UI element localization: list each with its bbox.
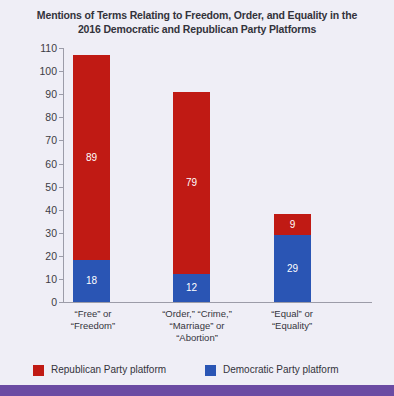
y-axis-tick-label: 80 [45, 112, 57, 123]
y-axis-tick-label: 40 [45, 204, 57, 215]
y-axis-tick [59, 279, 63, 280]
y-axis-tick-label: 20 [45, 251, 57, 262]
x-axis-category-line: “Abortion” [137, 332, 257, 344]
plot-area: 0 10 20 30 40 50 60 70 80 90 100 110 18 … [63, 48, 372, 302]
bar-segment-republican[interactable]: 89 [73, 55, 110, 261]
x-axis-category-line: “Equal” or [242, 308, 342, 320]
y-axis-tick-label: 0 [51, 297, 57, 308]
x-axis-category-line: “Order,” “Crime,” [137, 308, 257, 320]
bar-group[interactable]: 29 9 [274, 214, 311, 302]
x-axis-category-line: “Freedom” [43, 320, 143, 332]
y-axis-tick-label: 100 [39, 66, 57, 77]
y-axis-tick [59, 48, 63, 49]
bar-segment-republican[interactable]: 79 [173, 92, 210, 274]
bar-segment-value: 18 [86, 276, 97, 286]
bar-segment-republican[interactable]: 9 [274, 214, 311, 235]
bar-segment-value: 89 [86, 153, 97, 163]
chart-title: Mentions of Terms Relating to Freedom, O… [12, 9, 382, 36]
y-axis-tick [59, 94, 63, 95]
bar-group[interactable]: 18 89 [73, 55, 110, 302]
y-axis-tick-label: 10 [45, 274, 57, 285]
y-axis-tick-label: 110 [40, 43, 57, 54]
bottom-accent-band [0, 385, 394, 396]
y-axis-tick-label: 60 [45, 158, 57, 169]
y-axis-tick [59, 210, 63, 211]
bar-segment-value: 29 [287, 264, 298, 274]
y-axis-tick-label: 50 [45, 181, 57, 192]
bar-segment-value: 9 [290, 220, 296, 230]
x-axis-category-label: “Order,” “Crime,” “Marriage” or “Abortio… [137, 308, 257, 344]
legend-item-label: Democratic Party platform [223, 365, 339, 375]
bar-segment-value: 79 [186, 178, 197, 188]
x-axis-category-label: “Free” or “Freedom” [43, 308, 143, 332]
bar-group[interactable]: 12 79 [173, 92, 210, 302]
legend-item-republican[interactable]: Republican Party platform [33, 362, 166, 378]
bar-segment-value: 12 [186, 283, 197, 293]
y-axis-tick [59, 140, 63, 141]
chart-figure: Mentions of Terms Relating to Freedom, O… [0, 0, 394, 396]
y-axis-tick [59, 187, 63, 188]
x-axis-category-line: “Free” or [43, 308, 143, 320]
y-axis-tick [59, 302, 63, 303]
bar-segment-democratic[interactable]: 18 [73, 260, 110, 302]
legend-swatch-icon [33, 365, 44, 376]
chart-legend: Republican Party platform Democratic Par… [0, 362, 394, 378]
chart-title-line-1: Mentions of Terms Relating to Freedom, O… [37, 9, 357, 21]
y-axis-tick-label: 30 [45, 227, 57, 238]
bar-segment-democratic[interactable]: 29 [274, 235, 311, 302]
x-axis-line [63, 302, 372, 303]
legend-swatch-icon [205, 365, 216, 376]
x-axis-category-label: “Equal” or “Equality” [242, 308, 342, 332]
y-axis-tick [59, 71, 63, 72]
y-axis-tick [59, 233, 63, 234]
y-axis-tick-label: 70 [45, 135, 57, 146]
x-axis-category-line: “Equality” [242, 320, 342, 332]
legend-item-label: Republican Party platform [51, 365, 166, 375]
legend-item-democratic[interactable]: Democratic Party platform [205, 362, 339, 378]
y-axis-tick [59, 117, 63, 118]
y-axis-tick [59, 164, 63, 165]
bar-segment-democratic[interactable]: 12 [173, 274, 210, 302]
y-axis-tick-label: 90 [45, 89, 57, 100]
x-axis-category-line: “Marriage” or [137, 320, 257, 332]
y-axis-line [63, 48, 64, 303]
chart-title-line-2: 2016 Democratic and Republican Party Pla… [12, 23, 382, 37]
y-axis-tick [59, 256, 63, 257]
